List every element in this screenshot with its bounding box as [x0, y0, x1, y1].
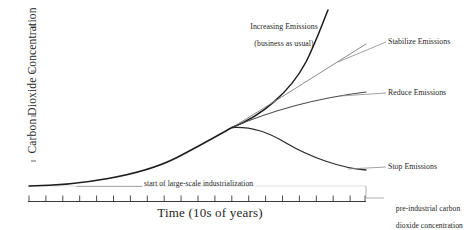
annotation-increasing-emissions: Increasing Emissions (business as usual) [228, 14, 332, 58]
annotation-industrialization: start of large-scale industrialization [144, 180, 253, 189]
annotation-stabilize-emissions: Stabilize Emissions [388, 38, 450, 47]
y-axis-label: Carbon Dioxide Concentration [26, 0, 39, 170]
leader-line-stabilize [338, 42, 386, 62]
annotation-increasing-line2: (business as usual) [254, 39, 313, 48]
co2-emissions-scenarios-chart: Carbon Dioxide Concentration Time (10s o… [0, 0, 468, 230]
reduce-emissions-curve [232, 92, 366, 128]
annotation-preindustrial-concentration: pre-industrial carbon dioxide concentrat… [388, 196, 464, 230]
annotation-increasing-line1: Increasing Emissions [250, 22, 317, 31]
annotation-stop-emissions: Stop Emissions [388, 163, 437, 172]
annotation-preindustrial-line1: pre-industrial carbon [396, 204, 461, 213]
x-axis-ticks [29, 196, 365, 202]
historical-curve [29, 128, 232, 187]
x-axis-label: Time (10s of years) [120, 206, 300, 221]
annotation-reduce-emissions: Reduce Emissions [388, 89, 446, 98]
stop-emissions-curve [232, 127, 366, 170]
annotation-preindustrial-line2: dioxide concentration [396, 221, 463, 230]
